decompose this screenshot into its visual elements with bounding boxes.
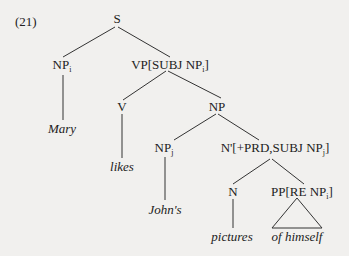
- node-np-object: NP: [209, 100, 226, 114]
- leaf-johns: John's: [148, 203, 181, 217]
- node-n: N: [228, 185, 237, 199]
- example-number: (21): [15, 15, 37, 29]
- node-np-subject: NPi: [53, 58, 72, 72]
- node-pp: PP[RE NPi]: [271, 185, 333, 199]
- leaf-likes: likes: [110, 160, 134, 174]
- leaf-pictures: pictures: [211, 230, 252, 244]
- leaf-mary: Mary: [48, 122, 76, 136]
- node-nbar: N'[+PRD,SUBJ NPj]: [221, 141, 330, 155]
- leaf-of-himself: of himself: [272, 230, 323, 244]
- node-s: S: [113, 12, 120, 26]
- node-np-possessor: NPj: [155, 141, 174, 155]
- node-vp: VP[SUBJ NPi]: [131, 58, 209, 72]
- node-v: V: [117, 100, 126, 114]
